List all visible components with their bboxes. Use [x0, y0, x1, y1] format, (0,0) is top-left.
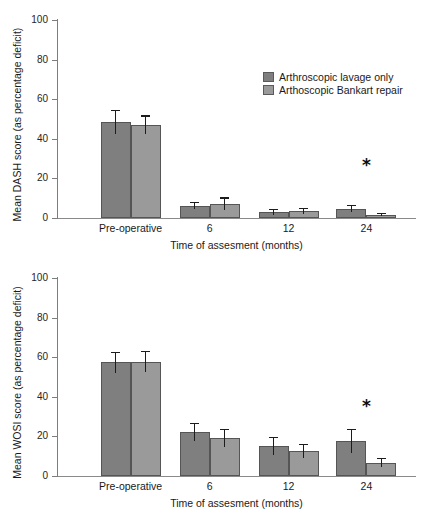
x-tick-label: 12	[283, 480, 295, 492]
error-bar-stem	[115, 110, 116, 134]
x-axis-title-dash: Time of assesment (months)	[57, 240, 416, 251]
error-bar-cap-upper	[141, 351, 150, 352]
y-tick-label: 0	[14, 213, 48, 223]
x-tick-label: 24	[361, 222, 373, 234]
y-tick-label: 60	[14, 94, 48, 104]
error-bar-cap-upper	[269, 209, 278, 210]
y-tick-mark	[52, 476, 58, 477]
error-bar-stem	[145, 351, 146, 372]
error-bar-cap-upper	[190, 423, 199, 424]
y-tick-label: 40	[14, 392, 48, 402]
x-tick-label: 6	[207, 480, 213, 492]
bar-wosi-1-0	[131, 362, 161, 476]
error-bar-cap-upper	[141, 115, 150, 116]
x-tick-label: Pre-operative	[99, 480, 162, 492]
chart-panel-wosi: Mean WOSI score (as percentage deficit) …	[0, 258, 423, 516]
error-bar-cap-upper	[269, 437, 278, 438]
x-tick-label: Pre-operative	[99, 222, 162, 234]
error-bar-cap-upper	[190, 202, 199, 203]
plot-area-wosi: *	[57, 278, 416, 476]
error-bar-cap-upper	[111, 352, 120, 353]
error-bar-stem	[115, 352, 116, 373]
y-tick-label: 80	[14, 55, 48, 65]
error-bar-cap-upper	[111, 110, 120, 111]
bar-dash-1-0	[131, 125, 161, 218]
y-tick-label: 40	[14, 134, 48, 144]
figure-two-panel-bar-charts: Mean DASH score (as percentage deficit) …	[0, 0, 423, 516]
y-axis-title-wosi: Mean WOSI score (as percentage deficit)	[12, 278, 23, 488]
error-bar-cap-upper	[220, 429, 229, 430]
error-bar-cap-upper	[347, 429, 356, 430]
legend: Arthroscopic lavage only Arthoscopic Ban…	[263, 71, 403, 97]
error-bar-cap-upper	[377, 213, 386, 214]
y-tick-label: 100	[14, 273, 48, 283]
y-tick-mark	[52, 218, 58, 219]
error-bar-cap-upper	[299, 208, 308, 209]
chart-panel-dash: Mean DASH score (as percentage deficit) …	[0, 0, 423, 258]
legend-swatch-lavage	[263, 72, 274, 82]
error-bar-cap-upper	[220, 197, 229, 198]
error-bar-stem	[145, 115, 146, 134]
y-tick-label: 20	[14, 431, 48, 441]
error-bar-stem	[224, 429, 225, 446]
error-bar-stem	[273, 437, 274, 455]
error-bar-cap-upper	[299, 444, 308, 445]
x-axis-line-dash	[57, 218, 416, 219]
y-tick-label: 80	[14, 313, 48, 323]
legend-item-bankart: Arthoscopic Bankart repair	[263, 84, 403, 96]
error-bar-cap-upper	[377, 458, 386, 459]
legend-label-bankart: Arthoscopic Bankart repair	[279, 85, 403, 96]
significance-asterisk: *	[362, 398, 371, 415]
error-bar-stem	[351, 429, 352, 454]
y-tick-label: 100	[14, 15, 48, 25]
bar-wosi-0-0	[101, 362, 131, 476]
x-tick-label: 24	[361, 480, 373, 492]
y-tick-label: 60	[14, 352, 48, 362]
significance-asterisk: *	[362, 157, 371, 174]
x-tick-label: 12	[283, 222, 295, 234]
legend-label-lavage: Arthroscopic lavage only	[279, 72, 393, 83]
bar-dash-0-0	[101, 122, 131, 218]
x-axis-line-wosi	[57, 476, 416, 477]
error-bar-stem	[303, 444, 304, 457]
error-bar-stem	[381, 458, 382, 467]
legend-item-lavage: Arthroscopic lavage only	[263, 71, 403, 83]
y-axis-title-dash: Mean DASH score (as percentage deficit)	[12, 20, 23, 230]
x-tick-label: 6	[207, 222, 213, 234]
y-tick-label: 0	[14, 471, 48, 481]
y-tick-label: 20	[14, 173, 48, 183]
error-bar-cap-upper	[347, 205, 356, 206]
error-bar-stem	[194, 423, 195, 441]
plot-area-dash: *	[57, 20, 416, 218]
legend-swatch-bankart	[263, 85, 274, 95]
x-axis-title-wosi: Time of assesment (months)	[57, 498, 416, 509]
error-bar-stem	[224, 197, 225, 210]
